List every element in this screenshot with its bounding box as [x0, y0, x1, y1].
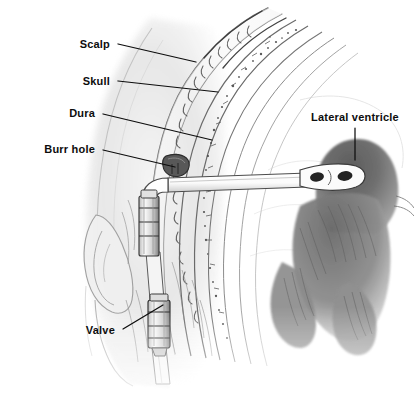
upper-connector [139, 190, 159, 256]
label-dura: Dura [69, 108, 95, 119]
anatomy-illustration [0, 0, 414, 394]
label-scalp: Scalp [80, 39, 110, 50]
label-skull: Skull [83, 76, 110, 87]
label-valve: Valve [86, 325, 115, 336]
catheter-tip [300, 164, 365, 190]
valve-device [148, 294, 170, 356]
label-burr-hole: Burr hole [44, 144, 95, 155]
label-lateral-ventricle: Lateral ventricle [311, 112, 399, 123]
